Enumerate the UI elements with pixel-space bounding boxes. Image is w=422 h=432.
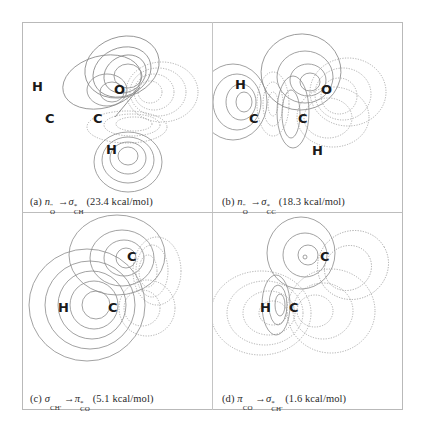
- atom-o: O: [114, 82, 125, 97]
- atom-h2: H: [106, 142, 117, 157]
- atom-c2: C: [127, 249, 137, 264]
- atom-c2: C: [93, 111, 103, 126]
- contour-plot-d: [213, 213, 403, 393]
- atom-c1: C: [289, 300, 299, 315]
- atom-h: H: [58, 300, 69, 315]
- atom-h1: H: [235, 77, 246, 92]
- atom-o: O: [321, 82, 332, 97]
- panel-b: H C C O H: [213, 22, 403, 212]
- panel-c: H C C: [22, 213, 212, 393]
- caption-c: (c) σCH' →π*CO (5.1 kcal/mol): [30, 393, 154, 412]
- panel-a: H C C O H: [22, 22, 212, 212]
- atom-h: H: [260, 300, 271, 315]
- caption-d: (d) πCO →σ*CH' (1.6 kcal/mol): [222, 393, 346, 412]
- panel-d: H C C: [213, 213, 403, 393]
- contour-plot-b: [213, 22, 403, 212]
- atom-c1: C: [249, 111, 259, 126]
- atom-h2: H: [312, 143, 323, 158]
- atom-c2: C: [298, 111, 308, 126]
- atom-c1: C: [108, 300, 118, 315]
- atom-c2: C: [320, 249, 330, 264]
- atom-c1: C: [45, 111, 55, 126]
- atom-h1: H: [32, 79, 43, 94]
